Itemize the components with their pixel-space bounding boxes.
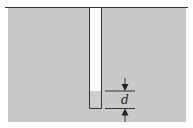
diagram-canvas: d [0, 0, 193, 128]
tube-liquid-column [90, 91, 101, 108]
tube-empty-interior [90, 8, 101, 91]
dimension-label: d [121, 93, 129, 107]
